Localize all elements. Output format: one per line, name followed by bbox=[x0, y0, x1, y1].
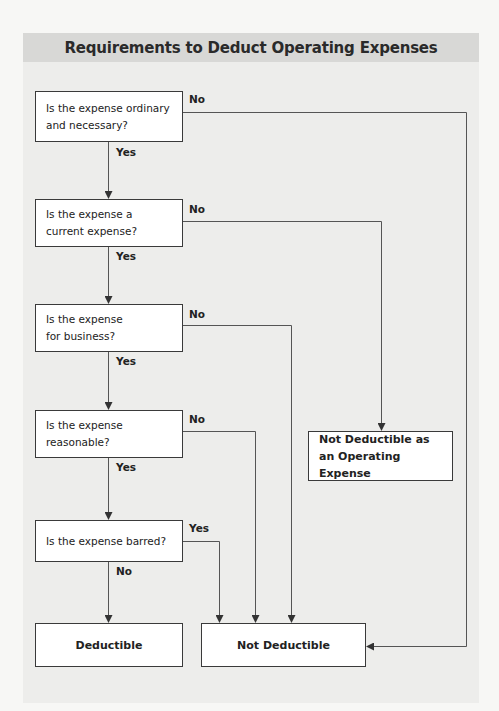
question-ordinary-necessary: Is the expense ordinary and necessary? bbox=[35, 91, 183, 142]
question-current-expense: Is the expense a current expense? bbox=[35, 199, 183, 247]
outcome-text: Deductible bbox=[76, 637, 143, 654]
label-q3-yes: Yes bbox=[116, 355, 136, 367]
outcome-text: Not Deductible bbox=[237, 637, 330, 654]
outcome-text: Not Deductible as an Operating Expense bbox=[319, 431, 442, 482]
question-text: Is the expense a current expense? bbox=[46, 206, 172, 240]
question-barred: Is the expense barred? bbox=[35, 520, 183, 562]
question-for-business: Is the expense for business? bbox=[35, 304, 183, 352]
question-text: Is the expense reasonable? bbox=[46, 417, 172, 451]
question-reasonable: Is the expense reasonable? bbox=[35, 410, 183, 458]
outcome-not-deductible: Not Deductible bbox=[201, 623, 366, 667]
label-q3-no: No bbox=[189, 308, 205, 320]
label-q4-no: No bbox=[189, 413, 205, 425]
label-q5-no: No bbox=[116, 565, 132, 577]
label-q2-yes: Yes bbox=[116, 250, 136, 262]
label-q2-no: No bbox=[189, 203, 205, 215]
question-text: Is the expense ordinary and necessary? bbox=[46, 100, 172, 134]
question-text: Is the expense for business? bbox=[46, 311, 172, 345]
outcome-deductible: Deductible bbox=[35, 623, 183, 667]
label-q5-yes: Yes bbox=[189, 522, 209, 534]
label-q1-no: No bbox=[189, 93, 205, 105]
outcome-not-operating-expense: Not Deductible as an Operating Expense bbox=[308, 431, 453, 481]
label-q4-yes: Yes bbox=[116, 461, 136, 473]
question-text: Is the expense barred? bbox=[46, 533, 166, 550]
label-q1-yes: Yes bbox=[116, 146, 136, 158]
